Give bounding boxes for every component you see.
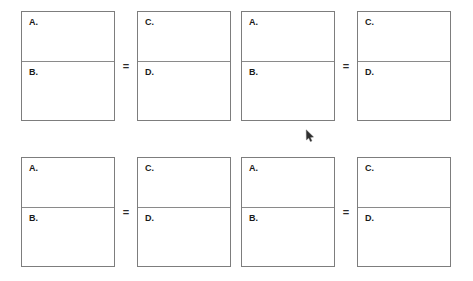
cell-label-numerator: A. bbox=[29, 17, 38, 27]
cell-label-numerator: C. bbox=[145, 163, 154, 173]
fraction-numerator-cell[interactable]: A. bbox=[242, 158, 334, 208]
fraction-box-right[interactable]: C. D. bbox=[357, 11, 451, 121]
cell-label-denominator: B. bbox=[29, 67, 38, 77]
fraction-box-left[interactable]: A. B. bbox=[241, 11, 335, 121]
fraction-numerator-cell[interactable]: C. bbox=[358, 12, 450, 62]
equation-group: A. B. = C. D. bbox=[241, 156, 451, 268]
fraction-denominator-cell[interactable]: B. bbox=[22, 208, 114, 268]
fraction-box-left[interactable]: A. B. bbox=[21, 11, 115, 121]
fraction-box-left[interactable]: A. B. bbox=[241, 157, 335, 267]
worksheet-canvas: A. B. = C. D. A. bbox=[0, 0, 473, 281]
fraction-denominator-cell[interactable]: B. bbox=[242, 208, 334, 268]
fraction-numerator-cell[interactable]: A. bbox=[22, 12, 114, 62]
equals-icon: = bbox=[115, 11, 137, 121]
equation-group: A. B. = C. D. bbox=[21, 156, 231, 268]
fraction-box-right[interactable]: C. D. bbox=[137, 157, 231, 267]
fraction-denominator-cell[interactable]: B. bbox=[22, 62, 114, 122]
cell-label-denominator: B. bbox=[249, 67, 258, 77]
fraction-numerator-cell[interactable]: A. bbox=[22, 158, 114, 208]
cell-label-denominator: D. bbox=[365, 213, 374, 223]
equals-icon: = bbox=[115, 157, 137, 267]
cell-label-denominator: B. bbox=[249, 213, 258, 223]
fraction-denominator-cell[interactable]: D. bbox=[358, 62, 450, 122]
fraction-box-right[interactable]: C. D. bbox=[357, 157, 451, 267]
equation-row: A. B. = C. D. A. bbox=[0, 10, 473, 122]
fraction-denominator-cell[interactable]: D. bbox=[358, 208, 450, 268]
cell-label-denominator: D. bbox=[145, 67, 154, 77]
equals-icon: = bbox=[335, 157, 357, 267]
equation-group: A. B. = C. D. bbox=[21, 10, 231, 122]
cell-label-numerator: A. bbox=[249, 163, 258, 173]
fraction-numerator-cell[interactable]: C. bbox=[138, 158, 230, 208]
fraction-denominator-cell[interactable]: D. bbox=[138, 62, 230, 122]
fraction-numerator-cell[interactable]: C. bbox=[358, 158, 450, 208]
cell-label-denominator: D. bbox=[365, 67, 374, 77]
mouse-pointer-icon bbox=[305, 129, 317, 142]
equation-row: A. B. = C. D. A. bbox=[0, 156, 473, 268]
cell-label-numerator: C. bbox=[145, 17, 154, 27]
fraction-denominator-cell[interactable]: D. bbox=[138, 208, 230, 268]
cell-label-numerator: C. bbox=[365, 17, 374, 27]
equation-group: A. B. = C. D. bbox=[241, 10, 451, 122]
cell-label-numerator: A. bbox=[29, 163, 38, 173]
cell-label-numerator: C. bbox=[365, 163, 374, 173]
cell-label-denominator: B. bbox=[29, 213, 38, 223]
fraction-box-left[interactable]: A. B. bbox=[21, 157, 115, 267]
fraction-numerator-cell[interactable]: A. bbox=[242, 12, 334, 62]
cell-label-denominator: D. bbox=[145, 213, 154, 223]
cell-label-numerator: A. bbox=[249, 17, 258, 27]
fraction-box-right[interactable]: C. D. bbox=[137, 11, 231, 121]
equals-icon: = bbox=[335, 11, 357, 121]
fraction-numerator-cell[interactable]: C. bbox=[138, 12, 230, 62]
fraction-denominator-cell[interactable]: B. bbox=[242, 62, 334, 122]
